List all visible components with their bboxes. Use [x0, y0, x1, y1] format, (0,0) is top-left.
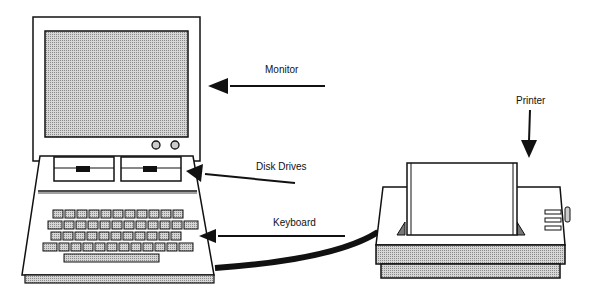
keyboard-key [77, 210, 87, 218]
keyboard-key [149, 210, 159, 218]
keyboard-key [83, 243, 93, 251]
base-plate [25, 275, 214, 283]
keyboard-key [111, 232, 121, 240]
keyboard-key [100, 221, 110, 229]
keyboard-key [113, 210, 123, 218]
keyboard-key [123, 232, 133, 240]
keyboard-key [71, 243, 81, 251]
keyboard-key [137, 210, 147, 218]
keyboard-key [48, 221, 62, 229]
arrow-down-icon [521, 140, 537, 158]
printer-cable [215, 232, 378, 268]
keyboard-key [112, 221, 122, 229]
keyboard-key [171, 232, 181, 240]
monitor [33, 17, 200, 161]
keyboard-key [101, 210, 111, 218]
printer-lower-body [376, 245, 565, 264]
keyboard-key [89, 210, 99, 218]
keyboard-key [64, 221, 74, 229]
label-disk-drives: Disk Drives [186, 161, 307, 183]
printer-button-icon [545, 218, 561, 222]
keyboard-key [161, 210, 171, 218]
disk-slot-icon [76, 166, 90, 172]
keyboard-key [125, 210, 135, 218]
monitor-screen [45, 31, 188, 137]
keyboard-key [76, 221, 86, 229]
printer-knob-icon [565, 207, 570, 222]
keyboard-key [51, 232, 61, 240]
label-printer: Printer [516, 95, 546, 158]
computer-base [22, 156, 214, 283]
keyboard-key [43, 243, 57, 251]
keyboard-label: Keyboard [273, 217, 316, 228]
monitor-knob-icon [152, 141, 160, 149]
printer-label: Printer [516, 95, 546, 106]
label-keyboard: Keyboard [199, 217, 345, 243]
keyboard-key [88, 221, 98, 229]
printer-button-icon [545, 210, 561, 214]
keyboard-key [148, 221, 158, 229]
spacebar [64, 254, 159, 262]
keyboard-key [135, 232, 145, 240]
keyboard-key [136, 221, 146, 229]
keyboard-key [147, 232, 157, 240]
keyboard-key [95, 243, 105, 251]
monitor-label: Monitor [265, 64, 299, 75]
keyboard-key [155, 243, 165, 251]
monitor-knob-icon [171, 141, 179, 149]
printer-paper [407, 163, 517, 235]
keyboard-key [124, 221, 134, 229]
disk-drives-label: Disk Drives [256, 161, 307, 172]
keyboard-key [107, 243, 117, 251]
keyboard-key [99, 232, 109, 240]
keyboard-key [63, 232, 73, 240]
keyboard-key [65, 210, 75, 218]
disk-slot-icon [143, 166, 157, 172]
keyboard-key [173, 210, 183, 218]
keyboard-key [167, 243, 177, 251]
keyboard-key [53, 210, 63, 218]
printer-button-icon [545, 226, 561, 230]
printer [376, 163, 570, 278]
keyboard-key [87, 232, 97, 240]
keyboard-key [59, 243, 69, 251]
keyboard-key [75, 232, 85, 240]
arrow-left-icon [208, 78, 228, 94]
keyboard-key [143, 243, 153, 251]
keyboard-key [160, 221, 170, 229]
keyboard-key [119, 243, 129, 251]
printer-base [381, 264, 560, 278]
keyboard-key [184, 221, 198, 229]
label-monitor: Monitor [208, 64, 325, 94]
keyboard-key [159, 232, 169, 240]
keyboard-key [131, 243, 141, 251]
keyboard-key [179, 243, 193, 251]
computer-system-diagram: Monitor Disk Drives Keyboard Printer [0, 0, 601, 298]
keyboard-key [172, 221, 182, 229]
